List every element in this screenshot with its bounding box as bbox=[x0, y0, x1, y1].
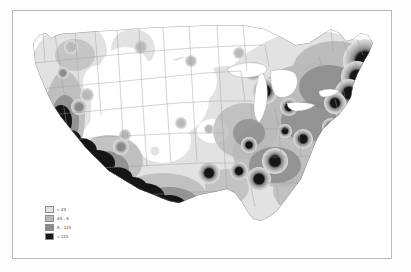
legend-item: > 115 bbox=[45, 232, 107, 240]
legend-label-class1: < 43 bbox=[57, 206, 66, 213]
legend-label-class2: 43 - 8 bbox=[57, 215, 69, 222]
legend-swatch-class2 bbox=[45, 215, 54, 222]
legend-label-class4: > 115 bbox=[57, 233, 68, 240]
legend-item: 8 - 115 bbox=[45, 223, 107, 231]
legend-swatch-class4 bbox=[45, 233, 54, 240]
map-legend: < 43 43 - 8 8 - 115 > 115 bbox=[45, 205, 107, 241]
figure-root: < 43 43 - 8 8 - 115 > 115 bbox=[0, 0, 411, 272]
legend-item: < 43 bbox=[45, 205, 107, 213]
legend-item: 43 - 8 bbox=[45, 214, 107, 222]
legend-swatch-class3 bbox=[45, 224, 54, 231]
map-frame: < 43 43 - 8 8 - 115 > 115 bbox=[12, 10, 392, 259]
legend-label-class3: 8 - 115 bbox=[57, 224, 71, 231]
legend-swatch-class1 bbox=[45, 206, 54, 213]
